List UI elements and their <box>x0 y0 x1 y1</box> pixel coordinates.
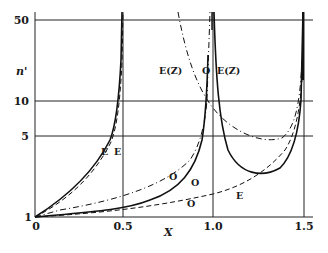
annotation-O-solid: O <box>191 177 199 188</box>
annotation-O-dashdot: O <box>169 171 177 182</box>
ytick-5: 5 <box>21 130 29 143</box>
annotation-E-2: E <box>114 146 121 157</box>
xtick-0.5: 0.5 <box>113 220 132 233</box>
annotation-E-right: E <box>236 190 243 201</box>
annotation-E-1: E <box>101 146 108 157</box>
curves <box>35 12 303 217</box>
x-axis-label: X <box>163 226 173 239</box>
xtick-1.0: 1.0 <box>203 220 222 233</box>
ytick-50: 50 <box>14 14 30 27</box>
annotation-EZ-right: E(Z) <box>217 65 240 76</box>
ytick-1: 1 <box>24 211 32 224</box>
y-axis-label: n' <box>16 65 27 78</box>
annotation-O-top: O <box>202 65 210 76</box>
annotation-EZ-left: E(Z) <box>159 65 182 76</box>
curve-E-dashed-left <box>35 12 123 217</box>
chart: 50 10 5 1 0 0.5 1.0 1.5 n' X E E O O O E… <box>0 0 328 253</box>
xtick-0: 0 <box>32 220 40 233</box>
ytick-10: 10 <box>14 95 30 108</box>
curve-EZ-solid <box>214 12 303 173</box>
xtick-1.5: 1.5 <box>294 220 313 233</box>
curve-E-solid-left <box>35 12 122 217</box>
grid <box>35 12 313 217</box>
annotation-O-dashed: O <box>187 198 195 209</box>
